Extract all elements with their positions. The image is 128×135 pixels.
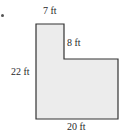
l-shape-figure: 7 ft 8 ft 22 ft 20 ft [0,0,128,135]
bottom-width-label: 20 ft [67,122,86,132]
left-height-label: 22 ft [11,67,30,77]
top-width-label: 7 ft [43,6,57,16]
notch-height-label: 8 ft [67,38,81,48]
